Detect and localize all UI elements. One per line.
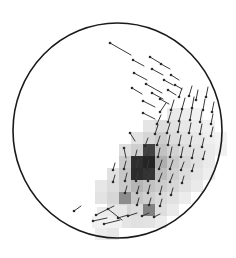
vector-base-dot	[177, 131, 180, 134]
vector-shaft	[196, 90, 198, 100]
vector-base-dot	[109, 42, 112, 45]
vector-base-dot	[169, 168, 172, 171]
vector-base-dot	[181, 182, 184, 185]
vector-base-dot	[154, 133, 157, 136]
vector-base-dot	[178, 96, 181, 99]
vector-base-dot	[188, 132, 191, 135]
vector-base-dot	[189, 119, 192, 122]
vector-base-dot	[199, 133, 202, 136]
heatmap-cell	[155, 168, 167, 180]
vector-shaft	[179, 88, 182, 97]
vector-shaft	[203, 99, 205, 110]
vector-base-dot	[127, 215, 130, 218]
vector-base-dot	[141, 215, 144, 218]
vector-shaft	[146, 84, 162, 93]
vector-glyph	[191, 97, 194, 109]
vector-base-dot	[160, 63, 163, 66]
vector-base-dot	[191, 157, 194, 160]
vector-base-dot	[147, 180, 150, 183]
vector-shaft	[150, 57, 160, 63]
vector-base-dot	[159, 205, 162, 208]
vector-base-dot	[124, 180, 127, 183]
vector-base-dot	[205, 96, 208, 99]
vector-glyph	[202, 99, 205, 111]
vector-base-dot	[159, 193, 162, 196]
vector-glyph	[178, 88, 182, 98]
vector-base-dot	[199, 121, 202, 124]
vector-glyph	[133, 72, 147, 80]
vector-base-dot	[153, 216, 156, 219]
vector-base-dot	[159, 111, 162, 114]
heatmap-cell	[155, 120, 167, 132]
vector-base-dot	[117, 217, 120, 220]
vector-base-dot	[170, 74, 173, 77]
heatmap-cell	[203, 144, 215, 156]
vector-shaft	[189, 86, 192, 96]
vector-shaft	[168, 90, 176, 95]
vector-shaft	[160, 99, 169, 104]
vector-shaft	[171, 75, 179, 80]
vector-base-dot	[159, 98, 162, 101]
heatmap-cell	[95, 192, 107, 204]
vector-base-dot	[145, 83, 148, 86]
vector-shaft	[161, 64, 170, 69]
vector-glyph	[167, 89, 176, 95]
vector-base-dot	[167, 89, 170, 92]
vector-base-dot	[156, 144, 159, 147]
heatmap-cell	[143, 132, 155, 144]
vector-glyph	[159, 98, 169, 104]
vector-shaft	[192, 97, 194, 108]
vector-base-dot	[211, 111, 214, 114]
heatmap-cell	[203, 120, 215, 132]
vector-base-dot	[107, 208, 110, 211]
vector-base-dot	[158, 180, 161, 183]
vector-base-dot	[188, 95, 191, 98]
vector-base-dot	[166, 132, 169, 135]
vector-glyph	[160, 63, 170, 69]
vector-base-dot	[95, 214, 98, 217]
vector-base-dot	[195, 99, 198, 102]
vector-base-dot	[170, 194, 173, 197]
heatmap-cell	[167, 192, 179, 204]
vector-base-dot	[167, 144, 170, 147]
vector-base-dot	[148, 204, 151, 207]
vector-base-dot	[158, 168, 161, 171]
vector-base-dot	[157, 156, 160, 159]
vector-base-dot	[124, 192, 127, 195]
vector-base-dot	[123, 168, 126, 171]
vector-base-dot	[134, 157, 137, 160]
vector-shaft	[134, 73, 147, 80]
vector-glyph	[195, 90, 198, 101]
vector-base-dot	[131, 87, 134, 90]
heatmap-cell	[131, 216, 143, 228]
vector-base-dot	[112, 169, 115, 172]
vector-base-dot	[132, 59, 135, 62]
vector-glyph	[131, 87, 142, 94]
vector-shaft	[160, 103, 166, 112]
vector-shaft	[133, 60, 144, 66]
figure-root	[0, 0, 236, 258]
heatmap-cell	[203, 132, 215, 144]
vector-base-dot	[103, 223, 106, 226]
vector-shaft	[143, 113, 155, 119]
vector-shaft	[212, 102, 214, 112]
heatmap-cell	[191, 180, 203, 192]
vector-glyph	[170, 74, 179, 80]
vector-glyph	[211, 102, 214, 113]
vector-base-dot	[191, 170, 194, 173]
vector-base-dot	[112, 181, 115, 184]
vector-base-dot	[136, 204, 139, 207]
vector-base-dot	[201, 146, 204, 149]
vector-glyph	[151, 68, 163, 75]
vector-base-dot	[180, 169, 183, 172]
vector-glyph	[73, 206, 81, 212]
vector-shaft	[110, 43, 131, 55]
heatmap-cell	[203, 156, 215, 168]
heatmap-cell	[167, 204, 179, 216]
vector-glyph	[149, 56, 160, 63]
vector-shaft	[152, 93, 163, 99]
vector-base-dot	[136, 192, 139, 195]
vector-shaft	[132, 88, 142, 94]
heatmap-cell	[107, 192, 119, 204]
vector-base-dot	[135, 180, 138, 183]
